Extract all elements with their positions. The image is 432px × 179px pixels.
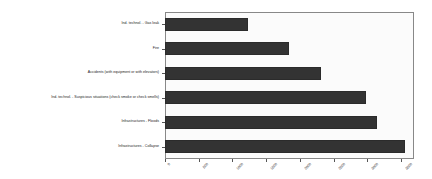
value-axis-tick-label: 0 — [168, 163, 172, 167]
value-axis-tick — [367, 159, 368, 162]
category-axis: Ind. technol. - Gas leakFireAccidents (w… — [0, 12, 165, 159]
bar[interactable] — [165, 91, 366, 104]
bar[interactable] — [165, 67, 321, 80]
value-axis: 0500100015002000250030003500 — [165, 159, 414, 179]
value-axis-tick-label: 3500 — [406, 163, 414, 171]
value-axis-tick-label: 500 — [202, 163, 209, 170]
bar-row[interactable] — [165, 61, 321, 86]
value-axis-tick-label: 1000 — [237, 163, 245, 171]
value-axis-tick-label: 1500 — [271, 163, 279, 171]
value-axis-tick — [199, 159, 200, 162]
bar[interactable] — [165, 116, 377, 129]
value-axis-tick-label: 2500 — [338, 163, 346, 171]
value-axis-tick-label: 2000 — [304, 163, 312, 171]
category-axis-label: Accidents (with equipment or with elevat… — [88, 61, 159, 86]
value-axis-tick — [165, 159, 166, 162]
category-axis-label: Infrastructures - Floods — [122, 110, 159, 135]
value-axis-tick — [401, 159, 402, 162]
bar-row[interactable] — [165, 37, 289, 62]
category-axis-label: Infrastructures - Collapse — [118, 135, 159, 160]
category-axis-label: Ind. technol. - Gas leak — [122, 12, 159, 37]
value-axis-tick — [300, 159, 301, 162]
bar[interactable] — [165, 140, 405, 153]
bar[interactable] — [165, 42, 289, 55]
bar-row[interactable] — [165, 86, 366, 111]
category-axis-label: Fire — [153, 37, 159, 62]
category-axis-label: Ind. technol. - Suspicious situations (c… — [51, 86, 159, 111]
value-axis-tick — [232, 159, 233, 162]
bar[interactable] — [165, 18, 248, 31]
bar-row[interactable] — [165, 135, 405, 160]
bar-row[interactable] — [165, 110, 377, 135]
bars-layer — [165, 12, 414, 159]
chart-container: Ind. technol. - Gas leakFireAccidents (w… — [0, 0, 432, 179]
value-axis-tick-label: 3000 — [372, 163, 380, 171]
bar-row[interactable] — [165, 12, 248, 37]
value-axis-tick — [266, 159, 267, 162]
value-axis-tick — [334, 159, 335, 162]
